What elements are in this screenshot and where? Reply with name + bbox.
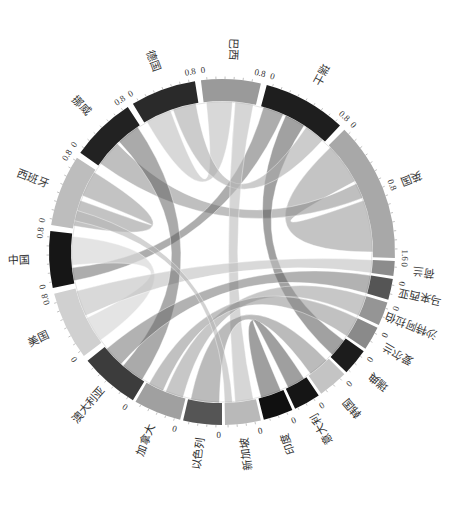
tick-label: 0 <box>69 139 80 149</box>
segment-label: 印度 <box>277 432 297 457</box>
tick-label: 0.8 <box>337 109 352 124</box>
tick-label: 0.8 <box>253 67 267 79</box>
tick-label: 0.8 <box>385 178 399 193</box>
segment-label: 挪威 <box>69 93 94 119</box>
segment-label: 西班牙 <box>15 167 50 191</box>
segment-label: 以色列 <box>189 436 207 470</box>
tick-label: 0 <box>399 262 409 268</box>
segment-label: 澳大利亚 <box>68 383 107 425</box>
tick-label: 0.8 <box>184 66 197 78</box>
tick-label: 0 <box>37 283 48 290</box>
segment-label: 马来西亚 <box>397 285 443 307</box>
tick-label: 0.8 <box>35 226 46 239</box>
segment-label: 爱尔兰 <box>380 340 415 368</box>
segment-4 <box>367 276 393 300</box>
segment-label: 加拿大 <box>132 422 157 458</box>
segment-label: 德国 <box>143 48 164 73</box>
tick-label: 0 <box>348 120 359 131</box>
segment-label: 意大利 <box>307 411 335 447</box>
tick-label: 0 <box>216 430 221 440</box>
segment-label: 美国 <box>26 328 51 349</box>
tick-label: 0 <box>379 331 390 340</box>
segment-label: 巴西 <box>226 38 240 61</box>
segment-3 <box>372 260 395 276</box>
segment-11 <box>225 399 261 425</box>
tick-label: 0.8 <box>112 93 127 108</box>
tick-label: 0.8 <box>39 292 52 306</box>
chord-diagram: 00.800.800.81.600000000000000.800.800.80… <box>0 0 464 510</box>
tick-label: 0 <box>120 401 130 412</box>
tick-label: 0 <box>344 378 355 389</box>
tick-label: 0 <box>171 423 178 434</box>
tick-label: 0 <box>317 400 327 411</box>
tick-label: 0 <box>200 65 206 75</box>
segment-label: 荷兰 <box>412 264 435 279</box>
segment-16 <box>49 231 74 288</box>
tick-label: 0 <box>256 426 263 437</box>
segment-label: 中国 <box>8 253 31 267</box>
tick-label: 1.6 <box>400 249 410 261</box>
tick-label: 0 <box>126 88 135 99</box>
tick-label: 0 <box>269 71 277 82</box>
segment-label: 瑞士 <box>310 62 333 88</box>
segment-label: 新加坡 <box>237 436 255 470</box>
tick-label: 0 <box>68 354 79 364</box>
tick-label: 0 <box>364 355 375 365</box>
segment-label: 韩国 <box>339 395 364 421</box>
segment-0 <box>201 79 261 105</box>
segment-label: 英国 <box>398 168 424 189</box>
tick-label: 0.8 <box>60 147 75 162</box>
tick-label: 0 <box>37 217 48 224</box>
tick-label: 0 <box>289 415 298 426</box>
segment-12 <box>183 399 222 425</box>
segment-label: 沙特阿拉伯 <box>383 309 439 342</box>
chord-ribbons <box>71 101 373 403</box>
segment-label: 瑞典 <box>365 369 391 394</box>
